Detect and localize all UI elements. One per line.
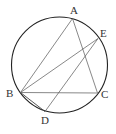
- label-E: E: [100, 27, 107, 39]
- label-D: D: [41, 114, 49, 126]
- label-B: B: [6, 87, 13, 99]
- segment-AB: [21, 19, 73, 93]
- segment-BD: [21, 93, 46, 112]
- segment-BE: [21, 39, 99, 93]
- label-A: A: [70, 4, 78, 16]
- segment-ED: [45, 39, 98, 112]
- label-C: C: [101, 88, 108, 100]
- geometry-figure: A E B C D: [0, 0, 116, 134]
- segment-AC: [73, 19, 98, 94]
